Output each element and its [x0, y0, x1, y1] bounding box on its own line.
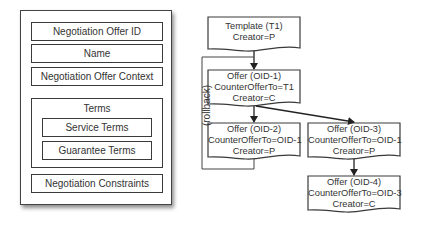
node-title: Offer (OID-4): [308, 177, 400, 188]
rollback-label: (rollback): [201, 85, 212, 126]
edge-oid1-to-oid3: [256, 106, 354, 122]
node-title: Offer (OID-3): [308, 124, 400, 135]
node-title: Offer (OID-2): [208, 124, 300, 135]
node-title: Template (T1): [208, 21, 300, 32]
node-counter-offer-to: CounterOfferTo=OID-3: [308, 188, 400, 199]
node-creator: Creator=P: [208, 32, 300, 43]
node-counter-offer-to: CounterOfferTo=T1: [208, 82, 300, 93]
node-title: Offer (OID-1): [208, 71, 300, 82]
node-creator: Creator=P: [208, 146, 300, 157]
node-oid-3: Offer (OID-3) CounterOfferTo=OID-1 Creat…: [308, 124, 400, 157]
node-creator: Creator=C: [308, 199, 400, 210]
node-creator: Creator=C: [208, 93, 300, 104]
node-counter-offer-to: CounterOfferTo=OID-1: [308, 135, 400, 146]
node-counter-offer-to: CounterOfferTo=OID-1: [208, 135, 300, 146]
node-template-t1: Template (T1) Creator=P: [208, 21, 300, 43]
node-creator: Creator=P: [308, 146, 400, 157]
node-oid-2: Offer (OID-2) CounterOfferTo=OID-1 Creat…: [208, 124, 300, 157]
node-oid-4: Offer (OID-4) CounterOfferTo=OID-3 Creat…: [308, 177, 400, 210]
node-oid-1: Offer (OID-1) CounterOfferTo=T1 Creator=…: [208, 71, 300, 104]
